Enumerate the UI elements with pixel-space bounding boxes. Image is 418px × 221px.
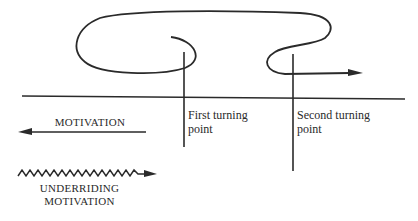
motivation-label: MOTIVATION	[40, 116, 140, 129]
second-turning-point-label: Second turning point	[297, 108, 370, 136]
arrowhead-icon	[348, 69, 363, 76]
timeline-axis	[22, 96, 405, 99]
arrow-right-icon	[144, 170, 157, 177]
underriding-zigzag	[18, 170, 146, 176]
arrow-left-icon	[18, 128, 32, 135]
first-turning-point-label: First turning point	[188, 108, 248, 136]
underriding-motivation-label: UNDERRIDING MOTIVATION	[22, 182, 137, 208]
motivation-curve	[77, 11, 350, 74]
